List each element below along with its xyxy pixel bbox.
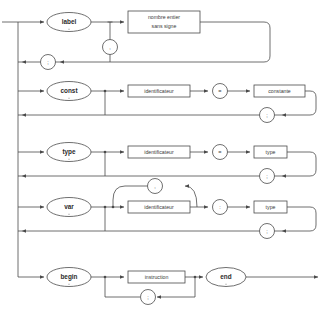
symbol-equals-type-text: =	[218, 149, 221, 155]
row-const: const identificateur = constante ;	[18, 82, 316, 123]
nonterminal-identificateur-const-text: identificateur	[144, 88, 174, 94]
keyword-label-text: label	[62, 18, 77, 25]
keyword-begin-text: begin	[60, 273, 77, 281]
row-body: begin instruction end ;	[18, 268, 318, 305]
keyword-const-text: const	[60, 87, 78, 94]
nonterminal-type-var-text: type	[266, 204, 276, 210]
main-spine	[2, 22, 18, 277]
keyword-var-text: var	[64, 203, 74, 210]
keyword-end-text: end	[220, 273, 231, 280]
nonterminal-identificateur-type-text: identificateur	[144, 149, 174, 155]
nonterminal-constante-text: constante	[268, 88, 291, 94]
keyword-type-text: type	[62, 148, 76, 156]
nonterminal-label-line2: sans signe	[152, 23, 177, 29]
nonterminal-type-text: type	[266, 149, 276, 155]
row-var: var identificateur , : type ;	[18, 179, 316, 239]
syntax-diagram-canvas: label nombre entier sans signe , ; const…	[0, 0, 331, 325]
row-type: type identificateur = type ;	[18, 143, 316, 184]
nonterminal-identificateur-var-text: identificateur	[144, 204, 174, 210]
row-label: label nombre entier sans signe , ;	[18, 11, 270, 70]
symbol-equals-const-text: =	[218, 88, 221, 94]
nonterminal-instruction-text: instruction	[145, 274, 169, 280]
nonterminal-label-line1: nombre entier	[148, 14, 180, 20]
